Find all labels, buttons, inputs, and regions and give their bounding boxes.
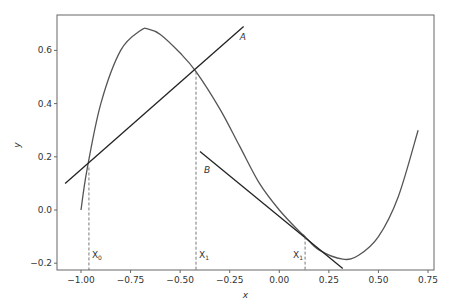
line-annotations: AB [204, 32, 246, 175]
plot-lines [65, 26, 418, 268]
marker-subscript: 0 [98, 254, 102, 261]
chart: −1.00−0.75−0.50−0.250.000.250.500.75 −0.… [0, 0, 450, 307]
x-tick-label: −0.25 [216, 275, 244, 285]
x-tick-label: 0.75 [418, 275, 438, 285]
x-tick-label: −1.00 [67, 275, 95, 285]
x-tick-label: 0.25 [319, 275, 339, 285]
y-axis-label: y [12, 142, 22, 149]
annotation-a: A [239, 32, 246, 42]
y-tick-label: 0.4 [38, 99, 53, 109]
x-tick-label: −0.75 [117, 275, 145, 285]
y-tick-label: −0.2 [30, 258, 52, 268]
x-tick-label: 0.50 [368, 275, 388, 285]
x-axis-label: x [242, 290, 249, 300]
x-axis-ticks: −1.00−0.75−0.50−0.250.000.250.500.75 [67, 270, 438, 285]
series-b-line [200, 151, 343, 268]
marker-label: X1 [199, 250, 209, 261]
plot-frame [57, 15, 434, 270]
series-curve-line [81, 28, 418, 259]
x-tick-label: −0.50 [166, 275, 194, 285]
y-tick-label: 0.2 [38, 152, 52, 162]
marker-label: X0 [92, 250, 102, 261]
y-axis-ticks: −0.20.00.20.40.6 [30, 45, 57, 268]
marker-label: X1 [293, 250, 303, 261]
y-tick-label: 0.6 [38, 45, 53, 55]
y-tick-label: 0.0 [38, 205, 53, 215]
annotation-b: B [204, 165, 210, 175]
marker-subscript: 1 [205, 254, 209, 261]
marker-subscript: 1 [299, 254, 303, 261]
vertical-markers: X0X1X1 [89, 72, 305, 270]
x-tick-label: 0.00 [269, 275, 289, 285]
